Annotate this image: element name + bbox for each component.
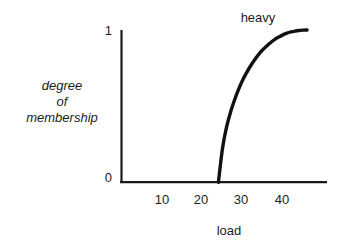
y-tick-label-1: 1 (96, 24, 112, 37)
y-axis-title-line-3: membership (8, 110, 116, 126)
x-tick-label-20: 20 (186, 193, 216, 206)
y-axis-title-line-1: degree (8, 78, 116, 94)
x-tick-label-10: 10 (147, 193, 177, 206)
y-axis-title-line-2: of (8, 94, 116, 110)
x-tick-label-40: 40 (267, 193, 297, 206)
x-tick-label-30: 30 (226, 193, 256, 206)
curve-annotation-heavy: heavy (223, 11, 293, 24)
x-axis-title: load (189, 224, 269, 237)
figure-canvas: 1 0 10 20 30 40 load degree of membershi… (0, 0, 344, 249)
y-axis-title: degree of membership (8, 78, 116, 126)
y-tick-label-0: 0 (96, 171, 112, 184)
membership-curve-heavy (218, 30, 307, 182)
